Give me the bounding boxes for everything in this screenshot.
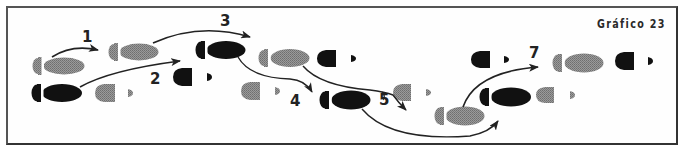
footprint-gray-full	[435, 107, 485, 126]
figure-title: Gráfico 23	[597, 16, 666, 31]
footprint-gray-partial	[536, 87, 575, 103]
footprint-black-partial	[317, 50, 356, 67]
footprint-black-partial	[471, 51, 509, 68]
step-label-5: 5	[379, 91, 389, 109]
footprint-gray-partial	[241, 82, 280, 100]
footprint-black-partial	[615, 52, 653, 70]
footprint-gray-partial	[393, 84, 431, 101]
footprint-gray-full	[259, 49, 310, 67]
step-label-1: 1	[82, 28, 92, 46]
step-label-4: 4	[290, 92, 300, 110]
footstep-diagram: 1 2 3 4 5 7	[0, 0, 680, 151]
footprint-gray-full	[553, 54, 604, 73]
footprint-gray-full	[33, 57, 85, 75]
arrow-step-2	[80, 61, 180, 87]
footprint-black-full	[320, 91, 371, 110]
arrow-step-1	[52, 48, 98, 57]
step-label-7: 7	[529, 44, 539, 62]
footprint-black-full	[32, 84, 83, 102]
footprint-gray-partial	[95, 84, 133, 102]
step-label-3: 3	[220, 12, 230, 30]
step-label-2: 2	[150, 70, 160, 88]
footprint-gray-full	[109, 43, 159, 61]
footprint-black-full	[196, 41, 246, 59]
footprint-black-full	[480, 88, 532, 107]
footprint-black-partial	[173, 68, 212, 86]
